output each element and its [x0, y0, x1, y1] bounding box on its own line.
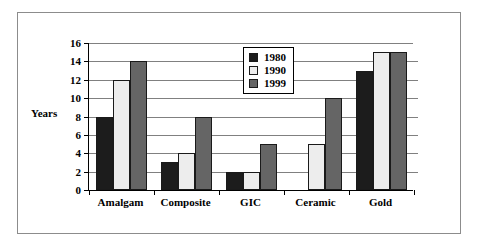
bar-composite-1990: [178, 153, 195, 190]
bar-gold-1999: [390, 52, 407, 190]
x-axis-separator-tick: [154, 190, 155, 195]
y-axis-tick-label: 10: [70, 92, 81, 104]
y-axis-tick-label: 12: [70, 74, 81, 86]
y-axis-tick-label: 2: [76, 166, 82, 178]
bar-group: [154, 43, 219, 190]
y-axis-tick-label: 0: [76, 184, 82, 196]
bar-composite-1999: [195, 117, 212, 191]
bar-gic-1980: [226, 172, 243, 190]
legend-swatch-icon: [249, 66, 258, 75]
bar-gic-1990: [243, 172, 260, 190]
y-axis-tick-label: 8: [76, 111, 82, 123]
bar-amalgam-1980: [96, 117, 113, 191]
bar-gold-1990: [373, 52, 390, 190]
x-axis-category-labels: AmalgamCompositeGICCeramicGold: [88, 196, 413, 216]
y-axis-tick-label: 4: [76, 147, 82, 159]
x-axis-label-ceramic: Ceramic: [295, 196, 335, 208]
legend-label: 1990: [264, 64, 286, 77]
bar-ceramic-1999: [325, 98, 342, 190]
bar-amalgam-1990: [113, 80, 130, 190]
x-axis-label-amalgam: Amalgam: [98, 196, 144, 208]
x-axis-end-tick: [89, 190, 90, 195]
x-axis-label-gold: Gold: [369, 196, 392, 208]
x-axis-end-tick: [414, 190, 415, 195]
bar-gold-1980: [356, 71, 373, 190]
axis-baseline: [89, 190, 413, 191]
bar-group: [349, 43, 414, 190]
x-axis-separator-tick: [284, 190, 285, 195]
y-axis-tick-label: 14: [70, 55, 81, 67]
y-axis-tick-label: 6: [76, 129, 82, 141]
legend-item-1980: 1980: [249, 51, 286, 64]
bar-amalgam-1999: [130, 61, 147, 190]
bar-gic-1999: [260, 144, 277, 190]
legend-item-1990: 1990: [249, 64, 286, 77]
x-axis-separator-tick: [219, 190, 220, 195]
x-axis-label-gic: GIC: [240, 196, 261, 208]
x-axis-label-composite: Composite: [160, 196, 210, 208]
x-axis-separator-tick: [349, 190, 350, 195]
legend-item-1999: 1999: [249, 77, 286, 90]
bar-ceramic-1990: [308, 144, 325, 190]
bar-composite-1980: [161, 162, 178, 190]
bar-chart-figure: Years 0246810121416 AmalgamCompositeGICC…: [0, 0, 478, 246]
legend-label: 1999: [264, 77, 286, 90]
legend-label: 1980: [264, 51, 286, 64]
bar-group: [89, 43, 154, 190]
y-axis-tick-label: 16: [70, 37, 81, 49]
y-axis-title: Years: [31, 107, 57, 119]
legend-swatch-icon: [249, 79, 258, 88]
legend-swatch-icon: [249, 53, 258, 62]
chart-legend: 198019901999: [243, 47, 294, 94]
